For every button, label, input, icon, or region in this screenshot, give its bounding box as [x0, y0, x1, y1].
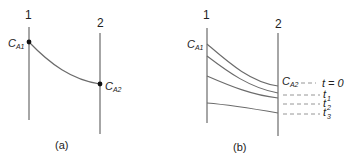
- point-ca2: [98, 82, 103, 87]
- plane-2-label: 2: [275, 17, 282, 31]
- plane-1-label: 1: [25, 8, 32, 22]
- diffusion-diagram: 1 2 CA1 CA2 (a) 1 2 CA1 CA2 t = 0 t1 t2 …: [0, 0, 354, 161]
- point-ca1: [27, 40, 32, 45]
- ca1-label: CA1: [187, 38, 204, 51]
- profile-t3: [207, 103, 278, 113]
- profile-t1: [207, 56, 278, 93]
- ca2-label: CA2: [105, 80, 122, 93]
- plane-2-label: 2: [97, 16, 104, 30]
- ca1-label: CA1: [8, 37, 25, 50]
- caption-a: (a): [55, 139, 68, 151]
- panel-b: 1 2 CA1 CA2 t = 0 t1 t2 t3 (b): [187, 8, 345, 153]
- profile-t2: [207, 76, 278, 98]
- panel-a: 1 2 CA1 CA2 (a): [8, 8, 122, 151]
- concentration-curve: [29, 42, 100, 84]
- ca2-label: CA2: [282, 75, 299, 88]
- caption-b: (b): [233, 141, 246, 153]
- plane-1-label: 1: [203, 8, 210, 22]
